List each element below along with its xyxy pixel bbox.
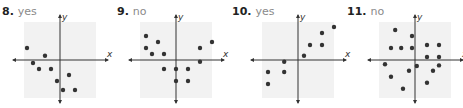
arrow-down-icon xyxy=(413,100,417,104)
y-axis-label: y xyxy=(299,12,306,22)
data-point xyxy=(425,81,429,85)
data-point xyxy=(162,67,166,71)
data-point xyxy=(144,34,148,38)
y-axis-label: y xyxy=(61,12,68,22)
data-point xyxy=(393,28,397,32)
data-point xyxy=(73,88,77,92)
data-point xyxy=(401,87,405,91)
arrow-left-icon xyxy=(250,58,254,62)
data-point xyxy=(266,82,270,86)
data-point xyxy=(174,79,178,83)
data-point xyxy=(186,79,190,83)
x-axis-label: x xyxy=(222,49,229,59)
scatter-plot: xy xyxy=(230,0,345,108)
data-point xyxy=(389,46,393,50)
data-point xyxy=(198,60,202,64)
data-point xyxy=(266,70,270,74)
data-point xyxy=(144,46,148,50)
problem-8: 8.yes xy xyxy=(0,0,115,108)
x-axis-label: x xyxy=(106,49,113,59)
data-point xyxy=(332,25,336,29)
data-point xyxy=(399,46,403,50)
problem-9: 9.no xy xyxy=(115,0,230,108)
data-point xyxy=(37,67,41,71)
data-point xyxy=(437,43,441,47)
data-point xyxy=(437,55,441,59)
arrow-down-icon xyxy=(174,100,178,104)
arrow-left-icon xyxy=(12,58,16,62)
problem-11: 11.no xy xyxy=(345,0,463,108)
data-point xyxy=(25,46,29,50)
data-point xyxy=(210,40,214,44)
data-point xyxy=(31,61,35,65)
scatter-plot: xy xyxy=(345,0,463,108)
data-point xyxy=(302,54,306,58)
data-point xyxy=(308,43,312,47)
data-point xyxy=(389,75,393,79)
arrow-left-icon xyxy=(128,58,132,62)
data-point xyxy=(410,46,414,50)
data-point xyxy=(43,54,47,58)
data-point xyxy=(425,55,429,59)
data-point xyxy=(162,52,166,56)
data-point xyxy=(407,69,411,73)
y-axis-label: y xyxy=(177,12,184,22)
data-point xyxy=(174,67,178,71)
scatter-plot: xy xyxy=(115,0,230,108)
problem-10: 10.yes xy xyxy=(230,0,345,108)
data-point xyxy=(425,43,429,47)
arrow-left-icon xyxy=(367,58,371,62)
data-point xyxy=(186,67,190,71)
arrow-down-icon xyxy=(58,100,62,104)
data-point xyxy=(55,79,59,83)
data-point xyxy=(383,62,387,66)
data-point xyxy=(437,63,441,67)
y-axis-label: y xyxy=(416,12,423,22)
data-point xyxy=(431,69,435,73)
data-point xyxy=(61,88,65,92)
data-point xyxy=(320,43,324,47)
data-point xyxy=(156,40,160,44)
data-point xyxy=(415,64,419,68)
scatter-plot: xy xyxy=(0,0,115,108)
arrow-down-icon xyxy=(296,100,300,104)
data-point xyxy=(49,67,53,71)
data-point xyxy=(198,46,202,50)
data-point xyxy=(282,70,286,74)
data-point xyxy=(410,34,414,38)
data-point xyxy=(67,73,71,77)
data-point xyxy=(320,31,324,35)
data-point xyxy=(282,60,286,64)
data-point xyxy=(150,52,154,56)
